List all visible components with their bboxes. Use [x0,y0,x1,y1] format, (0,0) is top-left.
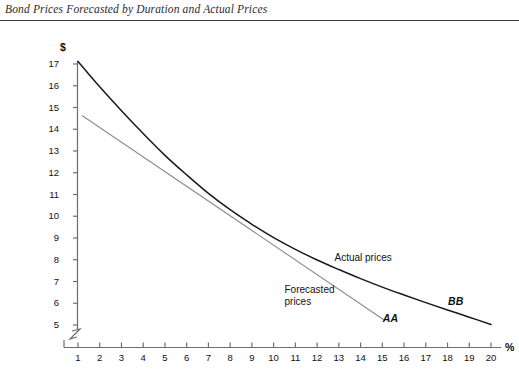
curve-label-bb: BB [448,295,463,307]
x-axis-tick-label: 17 [418,352,434,363]
x-axis-tick-label: 15 [374,352,390,363]
series-line-aa [82,116,384,320]
actual-prices-label: Actual prices [334,252,391,264]
x-axis-tick-label: 16 [396,352,412,363]
y-axis-unit-label: $ [60,41,66,53]
y-axis-tick-label: 15 [43,102,59,113]
y-axis-tick-label: 16 [43,80,59,91]
x-axis-tick-label: 10 [266,352,282,363]
y-axis-tick-label: 7 [43,276,59,287]
x-axis-tick-label: 1 [70,352,86,363]
chart-canvas [0,0,519,376]
y-axis-tick-label: 11 [43,189,59,200]
y-axis-tick-label: 9 [43,232,59,243]
x-axis-tick-label: 19 [461,352,477,363]
x-axis-tick-label: 14 [353,352,369,363]
y-axis-tick-label: 14 [43,123,59,134]
y-axis-tick-label: 10 [43,210,59,221]
y-axis-tick-label: 12 [43,167,59,178]
curve-label-aa: AA [383,312,398,324]
x-axis-tick-label: 7 [200,352,216,363]
x-axis-tick-label: 11 [287,352,303,363]
x-axis-tick-label: 8 [222,352,238,363]
forecasted-prices-label: Forecasted prices [285,284,335,308]
y-axis-tick-label: 5 [43,319,59,330]
chart-plot-area [0,0,519,376]
x-axis-tick-label: 6 [179,352,195,363]
x-axis-tick-label: 2 [92,352,108,363]
x-axis-tick-label: 18 [440,352,456,363]
x-axis-tick-label: 5 [157,352,173,363]
x-axis-unit-label: % [505,341,514,353]
axis-break-marker [70,329,80,339]
y-axis-tick-label: 17 [43,58,59,69]
x-axis-tick-label: 20 [483,352,499,363]
x-axis-tick-label: 4 [135,352,151,363]
y-axis-tick-label: 8 [43,254,59,265]
y-axis-tick-label: 6 [43,297,59,308]
x-axis-tick-label: 9 [244,352,260,363]
x-axis-tick-label: 3 [113,352,129,363]
chart-page: Bond Prices Forecasted by Duration and A… [0,0,519,376]
y-axis-tick-label: 13 [43,145,59,156]
x-axis-tick-label: 12 [309,352,325,363]
x-axis-tick-label: 13 [331,352,347,363]
